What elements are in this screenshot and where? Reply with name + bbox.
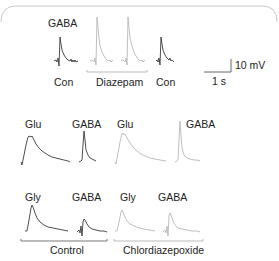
control-bracket [21,239,107,241]
trace-glu-control [21,136,70,165]
trace-gly-control [25,205,68,231]
label-con-1: Con [54,76,73,88]
label-gaba-control-b: GABA [72,118,101,130]
label-gly-drug: Gly [120,191,137,203]
scale-bar-voltage: 10 mV [235,59,265,71]
label-gly-control: Gly [25,191,42,203]
label-gaba-control-c: GABA [72,191,101,203]
trace-diazepam-1 [90,17,113,65]
figure-frame [1,6,277,22]
scale-bar [204,59,231,72]
trace-gaba-control-b [79,131,96,162]
figure-canvas: GABA Con Diazepam Con 10 mV 1 s Glu GABA… [0,0,279,261]
label-gaba-drug-c: GABA [158,191,187,203]
label-glu-control: Glu [25,118,42,130]
label-con-2: Con [156,76,175,88]
label-glu-drug: Glu [117,118,134,130]
label-chlordiazepoxide-group: Chlordiazepoxide [123,244,204,256]
trace-gaba-control-c [77,219,107,236]
label-gaba-drug-b: GABA [186,118,215,130]
trace-gly-drug [115,210,155,231]
trace-con-2 [156,37,174,65]
trace-glu-drug [115,133,166,164]
trace-gaba-drug-c [163,213,200,236]
trace-con-1 [54,37,78,66]
trace-diazepam-2 [121,17,145,65]
electrophysiology-figure: GABA Con Diazepam Con 10 mV 1 s Glu GABA… [0,0,279,261]
label-control-group: Control [50,244,84,256]
scale-bar-time: 1 s [212,75,226,87]
panel-a-drug-label: GABA [48,17,77,29]
chlordiazepoxide-bracket [114,239,203,241]
label-diazepam: Diazepam [96,76,144,88]
